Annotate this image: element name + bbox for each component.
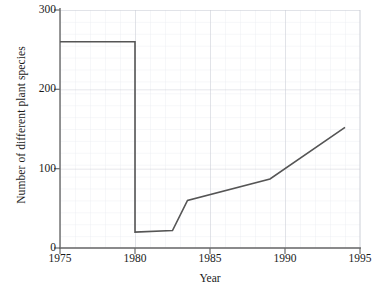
x-axis-title: Year [60, 272, 360, 284]
y-tick-marks [54, 10, 60, 248]
major-gridlines [60, 10, 360, 248]
y-axis-title: Number of different plant species [15, 10, 27, 240]
x-tick-label-1995: 1995 [330, 253, 378, 265]
x-tick-label-1980: 1980 [105, 253, 165, 265]
x-tick-label-1975: 1975 [30, 253, 90, 265]
line-chart: 300 200 100 0 1975 1980 1985 1990 1995 N… [0, 0, 378, 295]
chart-canvas [0, 0, 378, 295]
x-tick-label-1985: 1985 [180, 253, 240, 265]
x-tick-label-1990: 1990 [255, 253, 315, 265]
